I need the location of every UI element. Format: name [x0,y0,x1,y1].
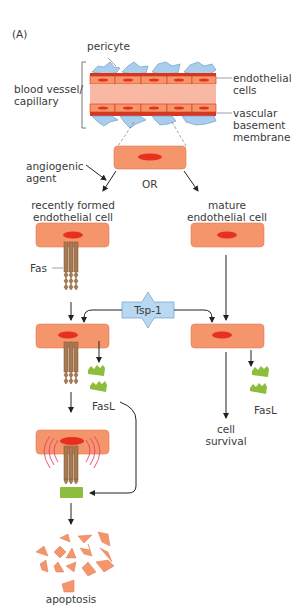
angiogenic-label-line2: agent [26,172,56,184]
cell-survival-line2: survival [200,435,252,447]
fas-label: Fas [30,262,47,274]
cell-survival-line1: cell [200,423,252,435]
or-label: OR [142,178,158,190]
pericytes-top [92,62,216,74]
fasl-left-ligand [88,365,107,392]
mature-cell-label-line1: mature [176,199,278,211]
vessel-label-line2: capillary [14,95,59,107]
fasl-right-ligand [250,366,269,394]
fas-receptor-2 [64,342,78,384]
fasl-right-label: FasL [254,404,277,416]
recent-cell-label-line2: endothelial cell [22,211,124,223]
vessel-bracket [82,62,86,128]
mature-cell-label-line2: endothelial cell [176,211,278,223]
vessel-label-line1: blood vessel/ [14,83,83,95]
membrane-label-line2: basement [233,119,286,131]
panel-label: (A) [12,28,27,40]
fas-receptor-3 [64,446,78,484]
membrane-label-line3: membrane [233,131,290,143]
pericytes-bottom [92,116,216,128]
apoptosis-label: apoptosis [40,593,102,605]
endothelial-label-line1: endothelial [233,72,292,84]
fasl-left-label: FasL [92,400,115,412]
membrane-label-line1: vascular [233,107,277,119]
fas-receptor-1 [64,242,78,290]
vessel-lumen [90,84,216,104]
endothelial-label-line2: cells [233,84,257,96]
angiogenic-label-line1: angiogenic [26,160,84,172]
pericyte-label: pericyte [87,40,130,52]
apoptotic-fragments [36,532,114,592]
bound-fasl [60,487,83,498]
tsp1-label: Tsp-1 [126,304,170,316]
recent-cell-label-line1: recently formed [22,199,124,211]
